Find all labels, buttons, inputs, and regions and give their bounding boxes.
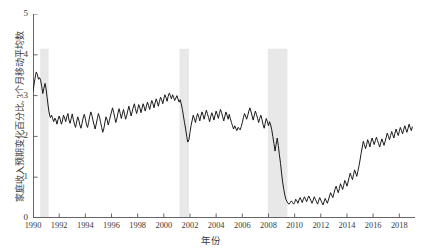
line-chart-svg [33, 14, 415, 218]
y-axis-tick-label: 3 [14, 90, 28, 100]
x-axis-tick-label: 2018 [382, 221, 416, 230]
income-expectation-line [33, 72, 412, 205]
y-axis-title: 家庭收入预期变化百分比, 3个月移动平均数 [13, 12, 26, 222]
y-axis-tick-label: 4 [14, 49, 28, 59]
recession-shading-group [40, 49, 287, 218]
y-axis-tick-label: 5 [14, 8, 28, 18]
recession-band [40, 49, 49, 218]
chart-container: 家庭收入预期变化百分比, 3个月移动平均数 012345 19901992199… [0, 0, 421, 252]
x-axis-title: 年份 [0, 233, 421, 247]
plot-area [33, 14, 415, 218]
y-axis-tick-label: 2 [14, 130, 28, 140]
recession-band [180, 49, 189, 218]
y-axis-tick-label: 1 [14, 171, 28, 181]
